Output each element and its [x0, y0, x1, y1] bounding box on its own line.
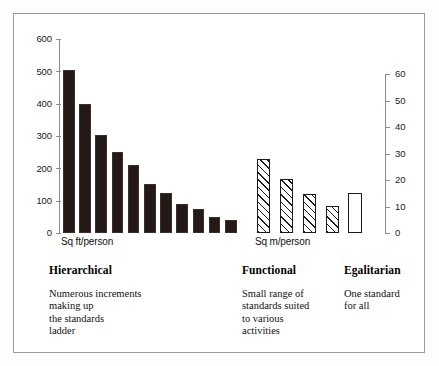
caption-heading-egalitarian: Egalitarian: [344, 264, 439, 276]
figure-frame: 600 500 400 300 200 100 0 60 50 40 30 20…: [13, 13, 425, 353]
unit-label-sq-ft-person: Sq ft/person: [61, 236, 113, 247]
caption-row: Hierarchical Numerous increments making …: [14, 264, 426, 354]
caption-hierarchical: Hierarchical Numerous increments making …: [49, 264, 229, 338]
caption-heading-functional: Functional: [242, 264, 352, 276]
caption-heading-hierarchical: Hierarchical: [49, 264, 229, 276]
caption-functional: Functional Small range of standards suit…: [242, 264, 352, 338]
plot-area: 600 500 400 300 200 100 0 60 50 40 30 20…: [14, 14, 426, 264]
unit-label-sq-m-person: Sq m/person: [255, 236, 310, 247]
caption-egalitarian: Egalitarian One standard for all: [344, 264, 439, 313]
caption-body-hierarchical: Numerous increments making up the standa…: [49, 288, 229, 338]
bar-egalitarian-1: [348, 193, 362, 233]
caption-body-functional: Small range of standards suited to vario…: [242, 288, 352, 338]
caption-body-egalitarian: One standard for all: [344, 288, 439, 313]
figure-canvas: 600 500 400 300 200 100 0 60 50 40 30 20…: [0, 0, 439, 366]
bar-group-egalitarian: [14, 14, 426, 264]
